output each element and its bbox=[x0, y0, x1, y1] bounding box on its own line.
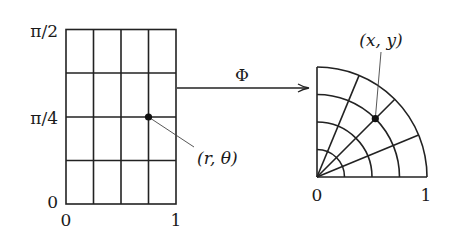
polar-map-diagram: π/2 π/4 0 0 1 (r, θ) Φ 0 1 (x, y) bbox=[0, 0, 449, 241]
point-leader-right bbox=[375, 52, 381, 119]
point-label-x-y: (x, y) bbox=[359, 30, 402, 50]
y-label-middle: π/4 bbox=[30, 108, 58, 128]
x-label-start-left: 0 bbox=[61, 210, 72, 230]
point-label-r-theta: (r, θ) bbox=[197, 148, 238, 168]
rect-grid bbox=[66, 30, 176, 205]
point-dot-left bbox=[145, 113, 152, 120]
y-label-top: π/2 bbox=[30, 21, 58, 41]
polar-ray bbox=[317, 99, 395, 177]
x-label-start-right: 0 bbox=[312, 185, 323, 205]
polar-grid bbox=[317, 67, 427, 177]
point-leader-left bbox=[149, 117, 195, 147]
x-label-end-right: 1 bbox=[421, 185, 432, 205]
y-label-bottom: 0 bbox=[47, 192, 58, 212]
map-label-phi: Φ bbox=[235, 65, 249, 85]
x-label-end-left: 1 bbox=[171, 210, 182, 230]
point-dot-right bbox=[372, 115, 379, 122]
